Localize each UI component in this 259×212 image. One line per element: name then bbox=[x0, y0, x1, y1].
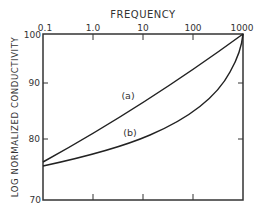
x-tick-label: 10 bbox=[137, 23, 149, 33]
x-ticks-bottom bbox=[93, 194, 193, 200]
series-a-label: (a) bbox=[121, 90, 134, 101]
series-a-line bbox=[43, 34, 243, 162]
x-tick-label: 1.0 bbox=[86, 23, 101, 33]
series-b-line bbox=[43, 34, 243, 166]
x-axis-title: FREQUENCY bbox=[110, 9, 176, 20]
plot-frame bbox=[43, 34, 243, 200]
y-tick-label: 80 bbox=[29, 134, 41, 144]
series-b-label: (b) bbox=[123, 127, 136, 138]
y-tick-label: 70 bbox=[30, 195, 42, 205]
x-ticks-top bbox=[93, 34, 193, 40]
y-tick-label: 90 bbox=[29, 78, 41, 88]
chart: FREQUENCY 0.1 1.0 10 100 1000 100 90 80 … bbox=[0, 0, 259, 212]
y-ticks bbox=[43, 83, 243, 139]
x-tick-label: 1000 bbox=[231, 23, 254, 33]
y-axis-title: LOG NORMALIZED CONDUCTIVITY bbox=[10, 37, 20, 198]
x-tick-label: 100 bbox=[184, 23, 201, 33]
y-tick-label: 100 bbox=[24, 30, 41, 40]
